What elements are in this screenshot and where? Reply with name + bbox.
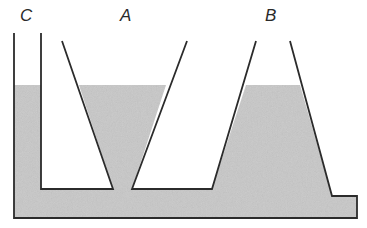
label-c: C xyxy=(20,7,32,24)
communicating-vessels-diagram: C A B xyxy=(0,0,367,228)
label-b: B xyxy=(265,7,276,24)
label-a: A xyxy=(120,7,131,24)
liquid-fill xyxy=(14,85,357,218)
vessels-drawing xyxy=(0,0,367,228)
